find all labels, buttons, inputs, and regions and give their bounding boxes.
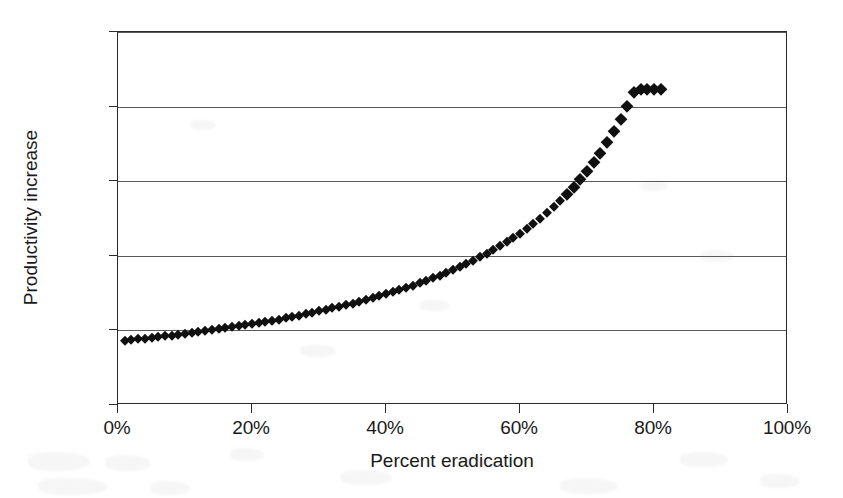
y-tick-mark <box>109 329 118 330</box>
data-point <box>608 125 620 137</box>
x-tick-label: 0% <box>57 417 177 439</box>
y-tick-mark <box>109 31 118 32</box>
x-tick-label: 40% <box>325 417 445 439</box>
y-tick-mark <box>109 255 118 256</box>
x-tick-mark <box>117 404 118 413</box>
scatter-chart: 0.0%0.5%1.0%1.5%2.0%2.5% Productivity in… <box>0 0 843 498</box>
plot-area <box>117 31 787 404</box>
gridline <box>118 181 786 182</box>
x-tick-mark <box>653 404 654 413</box>
x-tick-label: 80% <box>593 417 713 439</box>
x-axis-title: Percent eradication <box>117 450 787 472</box>
gridline <box>118 107 786 108</box>
x-tick-mark <box>787 404 788 413</box>
gridline <box>118 256 786 257</box>
x-tick-mark <box>519 404 520 413</box>
data-point <box>621 100 633 112</box>
x-tick-label: 20% <box>191 417 311 439</box>
x-tick-label: 60% <box>459 417 579 439</box>
gridline <box>118 32 786 33</box>
x-tick-mark <box>385 404 386 413</box>
data-point <box>594 146 606 158</box>
data-point <box>614 113 626 125</box>
x-tick-mark <box>251 404 252 413</box>
data-point <box>601 136 613 148</box>
y-axis-title: Productivity increase <box>16 31 46 404</box>
y-tick-mark <box>109 180 118 181</box>
y-tick-mark <box>109 106 118 107</box>
x-tick-label: 100% <box>727 417 843 439</box>
